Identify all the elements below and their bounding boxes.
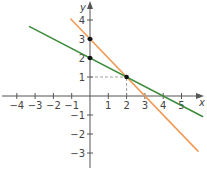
x-tick-label: 4 <box>160 100 166 111</box>
coordinate-plane: −4−3−2−112345 4321−1−2−3 x y <box>0 0 207 171</box>
y-tick-label: −2 <box>70 129 85 140</box>
x-tick-label: 2 <box>123 100 129 111</box>
y-tick-label: −3 <box>70 148 85 159</box>
axes <box>2 1 204 168</box>
y-axis-arrow-icon <box>87 1 93 9</box>
y-tick-label: 1 <box>79 72 85 83</box>
point-marker <box>88 37 93 42</box>
y-tick-label: 3 <box>79 34 85 45</box>
series-lines <box>30 19 203 151</box>
y-axis-label: y <box>79 2 87 13</box>
x-tick-label: 1 <box>105 100 111 111</box>
x-axis-label: x <box>198 97 205 108</box>
x-tick-label: −2 <box>46 100 61 111</box>
x-tick-label: −3 <box>28 100 43 111</box>
point-marker <box>124 75 129 80</box>
y-tick-label: 4 <box>79 15 85 26</box>
x-tick-label: 3 <box>142 100 148 111</box>
point-marker <box>88 56 93 61</box>
y-tick-label: −1 <box>70 110 85 121</box>
x-tick-label: −4 <box>9 100 24 111</box>
